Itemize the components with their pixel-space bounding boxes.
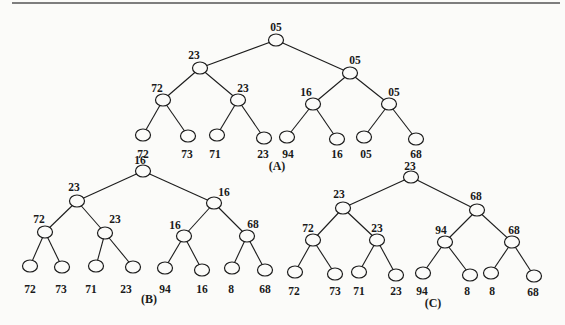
leaf-node [136,129,151,141]
tree-caption: (C) [425,296,442,310]
node-label: 23 [371,222,383,234]
node-label: 16 [169,219,181,231]
node-label: 71 [209,148,221,160]
leaf-node [328,268,343,280]
node-label: 05 [270,21,282,33]
leaf-node [484,267,499,279]
tree-edge [200,40,276,68]
node-label: 68 [259,283,271,295]
node-label: 94 [159,283,171,295]
node-label: 71 [353,285,365,297]
internal-node [404,171,419,183]
node-label: 68 [247,218,259,230]
node-label: 23 [333,188,345,200]
leaf-node [352,266,367,278]
node-label: 23 [390,285,402,297]
node-label: 23 [237,82,249,94]
tree-edge [143,171,214,203]
internal-node [70,195,85,207]
node-label: 73 [55,283,67,295]
tree-edge [77,171,143,201]
node-label: 72 [288,285,300,297]
node-label: 05 [360,148,372,160]
leaf-node [126,261,141,273]
leaf-node [158,262,173,274]
node-label: 72 [151,82,163,94]
node-label: 16 [196,283,208,295]
tree-edge [411,177,477,210]
internal-node [306,234,321,246]
tree-a: 052305722316057273712394160568(A) [136,21,424,173]
leaf-node [330,133,345,145]
node-label: 16 [331,148,343,160]
internal-node [136,165,151,177]
internal-node [370,234,385,246]
leaf-node [389,269,404,281]
node-label: 68 [527,286,539,298]
tournament-tree-figure: 052305722316057273712394160568(A) 162316… [0,0,565,325]
node-label: 94 [435,224,447,236]
node-label: 72 [33,213,45,225]
leaf-node [416,267,431,279]
node-label: 16 [300,86,312,98]
internal-node [98,227,113,239]
leaf-node [409,133,424,145]
node-label: 68 [410,148,422,160]
tree-c: 2323687223946872737123948868(C) [288,160,542,310]
node-label: 8 [228,283,234,295]
leaf-node [288,266,303,278]
node-label: 05 [388,86,400,98]
node-label: 72 [302,222,314,234]
internal-node [156,94,171,106]
node-label: 68 [508,224,520,236]
leaf-node [280,131,295,143]
node-label: 23 [68,181,80,193]
node-label: 05 [349,54,361,66]
node-label: 8 [489,285,495,297]
leaf-node [258,264,273,276]
leaf-node [23,260,38,272]
node-label: 68 [470,190,482,202]
leaf-node [195,264,210,276]
internal-node [177,230,192,242]
node-label: 8 [464,285,470,297]
node-label: 71 [85,283,97,295]
node-label: 73 [329,285,341,297]
leaf-node [181,130,196,142]
internal-node [38,226,53,238]
tree-caption: (A) [269,159,286,173]
node-label: 23 [188,49,200,61]
tree-caption: (B) [141,292,157,306]
figure-svg: 052305722316057273712394160568(A) 162316… [0,0,565,325]
tree-edge [276,40,350,73]
leaf-node [210,129,225,141]
internal-node [231,94,246,106]
node-label: 23 [109,213,121,225]
node-label: 23 [120,283,132,295]
node-label: 23 [257,148,269,160]
internal-node [207,197,222,209]
tree-b: 16231672231668727371239416868(B) [23,154,273,306]
node-label: 72 [24,283,36,295]
leaf-node [55,261,70,273]
internal-node [505,236,520,248]
leaf-node [463,269,478,281]
internal-node [470,204,485,216]
internal-node [240,230,255,242]
internal-node [306,98,321,110]
tree-edge [200,68,238,100]
internal-node [438,236,453,248]
leaf-node [257,132,272,144]
leaf-node [225,262,240,274]
node-label: 16 [218,186,230,198]
internal-node [343,67,358,79]
node-label: 16 [134,154,146,166]
tree-edge [350,73,389,104]
node-label: 73 [181,148,193,160]
leaf-node [89,260,104,272]
internal-node [382,98,397,110]
leaf-node [527,270,542,282]
internal-node [336,202,351,214]
internal-node [269,34,284,46]
tree-edge [343,177,411,208]
